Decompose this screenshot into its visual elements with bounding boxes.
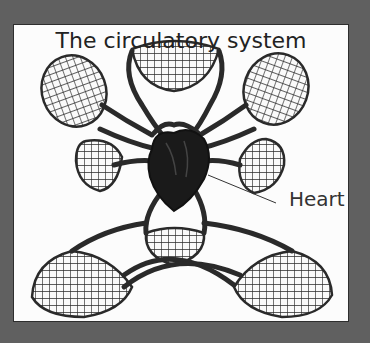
heart-label: Heart <box>289 187 345 211</box>
figure-panel: The circulatory system Heart <box>13 24 349 322</box>
figure-title: The circulatory system <box>14 28 348 53</box>
capillary-bed-mid-right <box>239 139 284 193</box>
capillary-bed-lower-left <box>32 251 132 317</box>
circulatory-diagram <box>14 25 349 322</box>
capillary-bed-lower-right <box>234 251 332 317</box>
figure-frame: The circulatory system Heart <box>0 0 370 343</box>
capillary-bed-upper-right <box>234 44 319 134</box>
capillary-bed-upper-left <box>32 46 117 136</box>
